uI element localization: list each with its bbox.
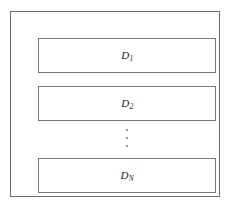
data-block-2-subscript: 2	[129, 102, 133, 111]
data-block-1-label: D1	[121, 50, 133, 61]
data-block-n-subscript: N	[129, 174, 134, 183]
ellipsis-dot	[126, 129, 128, 131]
ellipsis-dot	[126, 137, 128, 139]
outer-container-frame: D1 D2 DN	[10, 11, 220, 197]
data-block-2: D2	[38, 86, 216, 121]
data-block-n-label: DN	[121, 170, 134, 181]
diagram-canvas: D1 D2 DN	[0, 0, 232, 208]
data-block-n: DN	[38, 158, 216, 193]
vertical-ellipsis-icon	[124, 129, 130, 147]
ellipsis-dot	[126, 145, 128, 147]
data-block-2-label: D2	[121, 98, 133, 109]
data-block-1-subscript: 1	[129, 54, 133, 63]
data-block-1: D1	[38, 38, 216, 73]
